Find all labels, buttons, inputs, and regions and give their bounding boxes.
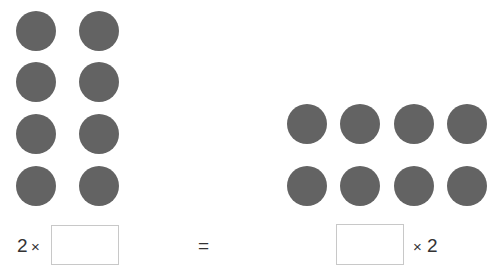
dot xyxy=(394,104,434,144)
dot xyxy=(447,166,487,206)
dot xyxy=(16,11,56,51)
dot xyxy=(287,104,327,144)
dot xyxy=(287,166,327,206)
dot xyxy=(16,62,56,102)
dot xyxy=(79,11,119,51)
dot xyxy=(16,114,56,154)
right-factor: 2 xyxy=(427,236,438,255)
dot xyxy=(394,166,434,206)
left-answer-box[interactable] xyxy=(51,225,119,265)
dot xyxy=(340,104,380,144)
dot xyxy=(79,166,119,206)
right-answer-box[interactable] xyxy=(336,224,404,265)
dot xyxy=(16,166,56,206)
right-multiply-sign: × xyxy=(413,239,422,254)
equals-sign: = xyxy=(198,236,209,255)
left-multiply-sign: × xyxy=(31,239,40,254)
dot xyxy=(79,114,119,154)
left-factor: 2 xyxy=(17,236,28,255)
dot xyxy=(447,104,487,144)
dot xyxy=(340,166,380,206)
dot xyxy=(79,62,119,102)
